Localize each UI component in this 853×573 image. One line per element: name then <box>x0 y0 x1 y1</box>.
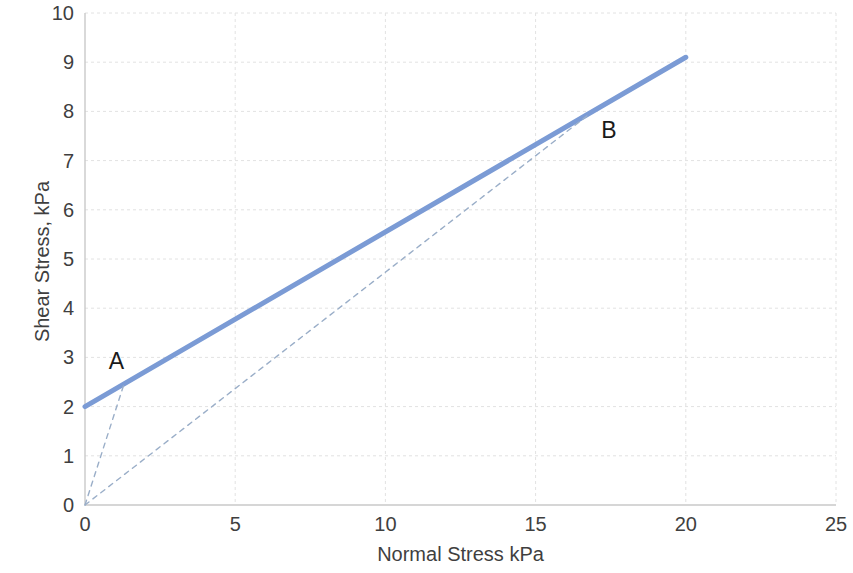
grid-lines <box>85 13 836 505</box>
plot-area <box>0 0 853 573</box>
point-label-b: B <box>601 117 617 144</box>
shear-stress-chart: Shear Stress, kPa Normal Stress kPa 0123… <box>0 0 853 573</box>
series-stress-path-to-B <box>85 114 590 505</box>
point-label-a: A <box>109 348 125 375</box>
data-series-layer <box>85 57 686 505</box>
